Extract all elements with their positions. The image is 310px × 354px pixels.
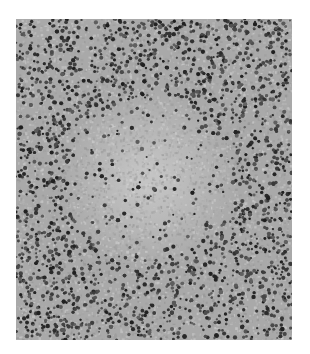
tissue-texture — [16, 19, 292, 340]
micrograph-image — [16, 19, 292, 340]
